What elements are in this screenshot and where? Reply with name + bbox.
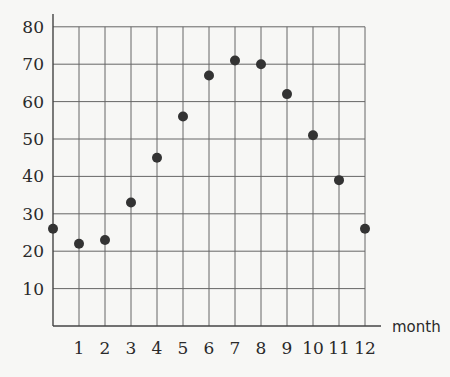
data-point <box>48 224 58 234</box>
x-tick-label: 1 <box>74 338 85 358</box>
data-point <box>334 175 344 185</box>
x-tick-label: 12 <box>354 338 376 358</box>
scatter-chart: 1020304050607080 123456789101112 month <box>0 0 450 377</box>
y-tick-label: 70 <box>22 54 44 74</box>
y-tick-label: 50 <box>22 129 44 149</box>
data-point <box>204 70 214 80</box>
data-point <box>256 59 266 69</box>
x-tick-label: 7 <box>230 338 241 358</box>
y-tick-label: 60 <box>22 92 44 112</box>
data-point <box>152 153 162 163</box>
x-tick-label: 10 <box>302 338 324 358</box>
y-tick-label: 20 <box>22 241 44 261</box>
y-tick-label: 10 <box>22 279 44 299</box>
x-tick-label: 6 <box>204 338 215 358</box>
x-tick-label: 3 <box>126 338 137 358</box>
data-point <box>360 224 370 234</box>
x-tick-label: 8 <box>256 338 267 358</box>
data-point <box>282 89 292 99</box>
y-tick-label: 80 <box>22 17 44 37</box>
data-point <box>230 55 240 65</box>
data-point <box>308 130 318 140</box>
data-point <box>100 235 110 245</box>
data-point <box>178 112 188 122</box>
x-tick-label: 11 <box>328 338 350 358</box>
data-point <box>74 239 84 249</box>
x-tick-label: 4 <box>152 338 163 358</box>
x-tick-label: 2 <box>100 338 111 358</box>
data-point <box>126 198 136 208</box>
x-tick-label: 9 <box>282 338 293 358</box>
x-axis-label: month <box>392 318 441 336</box>
y-tick-label: 30 <box>22 204 44 224</box>
x-axis-ticks: 123456789101112 <box>74 338 376 358</box>
x-tick-label: 5 <box>178 338 189 358</box>
y-tick-label: 40 <box>22 166 44 186</box>
y-axis-ticks: 1020304050607080 <box>22 17 44 299</box>
axes <box>53 14 381 326</box>
